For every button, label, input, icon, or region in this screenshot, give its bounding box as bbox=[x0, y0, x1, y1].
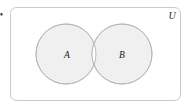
venn-diagram-canvas: A B U bbox=[0, 0, 192, 111]
set-a-label: A bbox=[63, 50, 70, 60]
universal-set-label: U bbox=[168, 10, 176, 21]
edge-artifact-speck bbox=[1, 13, 3, 16]
venn-diagram-figure: A B U bbox=[0, 0, 192, 111]
set-b-label: B bbox=[119, 50, 125, 60]
